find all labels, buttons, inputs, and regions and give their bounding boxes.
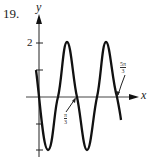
y-tick-label-2: 2	[27, 36, 33, 48]
annotation-pi-over-3-label: π 3	[64, 112, 67, 125]
y-axis-arrow-icon	[36, 14, 42, 24]
sine-curve	[36, 42, 121, 150]
sinusoid-graph	[0, 0, 157, 158]
annotation-5pi-over-3: 5π 3	[120, 61, 126, 74]
x-axis-label: x	[141, 88, 146, 103]
x-axis-arrow-icon	[129, 94, 139, 100]
y-axis-label: y	[36, 0, 41, 15]
